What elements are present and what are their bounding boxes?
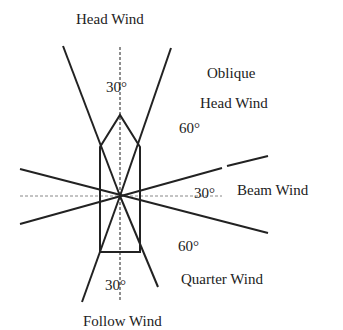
beam-line-lower xyxy=(20,169,268,233)
wind-direction-diagram: Head Wind 30° Oblique Head Wind 60° 30° … xyxy=(0,0,343,330)
angle-beam: 30° xyxy=(194,186,215,201)
label-beam-wind: Beam Wind xyxy=(237,183,308,198)
angle-head: 30° xyxy=(106,80,127,95)
label-head-wind: Head Wind xyxy=(76,12,144,27)
beam-line-upper-ext xyxy=(227,156,268,166)
diagram-canvas xyxy=(0,0,343,330)
label-oblique-1: Oblique xyxy=(207,66,255,81)
label-quarter-wind: Quarter Wind xyxy=(181,272,263,287)
label-oblique-2: Head Wind xyxy=(200,96,268,111)
head-wind-line-left xyxy=(63,46,120,196)
angle-oblique: 60° xyxy=(179,121,200,136)
head-wind-line-right xyxy=(120,48,171,196)
label-follow-wind: Follow Wind xyxy=(83,314,162,329)
angle-follow: 30° xyxy=(105,278,126,293)
angle-quarter: 60° xyxy=(178,239,199,254)
